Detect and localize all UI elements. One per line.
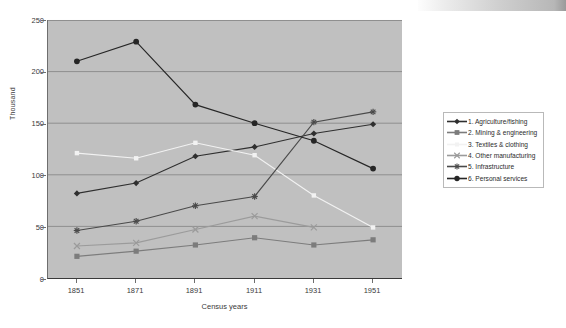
- data-point-small-square: [312, 193, 316, 197]
- data-point-square: [370, 237, 375, 242]
- data-point-circle: [311, 138, 317, 144]
- data-point-square: [311, 242, 316, 247]
- series-5: [74, 109, 377, 234]
- data-point-diamond: [454, 119, 460, 125]
- y-tick-label: 100: [12, 171, 44, 180]
- data-point-asterisk: [74, 227, 80, 233]
- x-tick-label: 1911: [224, 286, 284, 295]
- x-tick-label: 1891: [164, 286, 224, 295]
- x-tick-mark: [194, 279, 195, 283]
- data-point-square: [455, 131, 460, 136]
- data-point-small-square: [75, 151, 79, 155]
- legend-label: 4. Other manufacturing: [468, 150, 535, 161]
- x-tick-label: 1871: [105, 286, 165, 295]
- legend-label: 1. Agriculture/fishing: [468, 116, 527, 127]
- legend-label: 6. Personal services: [468, 173, 527, 184]
- data-point-square: [252, 235, 257, 240]
- y-tick-label: 50: [12, 223, 44, 232]
- data-point-asterisk: [251, 193, 257, 199]
- data-point-circle: [252, 120, 258, 126]
- data-point-circle: [192, 102, 198, 108]
- x-tick-mark: [76, 279, 77, 283]
- chart-legend: 1. Agriculture/fishing2. Mining & engine…: [443, 112, 544, 188]
- scan-gradient-bar: [418, 0, 566, 11]
- x-tick-mark: [254, 279, 255, 283]
- line-chart: 250 200 150 100 50 0 Thousand: [0, 0, 440, 328]
- data-point-small-square: [252, 153, 256, 157]
- legend-item-2[interactable]: 2. Mining & engineering: [446, 127, 540, 138]
- y-axis: 250 200 150 100 50 0: [6, 0, 44, 328]
- plot-area: [47, 20, 402, 279]
- x-tick-label: 1931: [283, 286, 343, 295]
- x-tick-mark: [313, 279, 314, 283]
- legend-marker-circle-icon: [446, 173, 468, 184]
- x-axis-title: Census years: [47, 302, 402, 311]
- series-line: [77, 112, 373, 231]
- series-line: [77, 124, 373, 193]
- y-tick-mark: [41, 279, 46, 280]
- series-2: [74, 235, 375, 259]
- y-tick-mark: [41, 20, 46, 21]
- data-point-circle: [370, 166, 376, 172]
- series-line: [77, 216, 314, 246]
- data-point-diamond: [133, 180, 139, 186]
- x-tick-label: 1851: [46, 286, 106, 295]
- series-3: [75, 141, 376, 230]
- legend-item-4[interactable]: 4. Other manufacturing: [446, 150, 540, 161]
- legend-item-1[interactable]: 1. Agriculture/fishing: [446, 116, 540, 127]
- data-point-small-square: [455, 142, 459, 146]
- y-tick-mark: [41, 72, 46, 73]
- data-point-diamond: [370, 121, 376, 127]
- legend-label: 3. Textiles & clothing: [468, 139, 528, 150]
- legend-marker-small-square-icon: [446, 139, 468, 150]
- data-point-small-square: [134, 156, 138, 160]
- legend-label: 2. Mining & engineering: [468, 127, 537, 138]
- legend-marker-diamond-icon: [446, 116, 468, 127]
- legend-item-3[interactable]: 3. Textiles & clothing: [446, 139, 540, 150]
- data-point-asterisk: [370, 109, 376, 115]
- y-tick-label: 200: [12, 67, 44, 76]
- y-tick-mark: [41, 124, 46, 125]
- data-point-circle: [74, 58, 80, 64]
- data-point-asterisk: [192, 203, 198, 209]
- data-point-diamond: [192, 153, 198, 159]
- data-point-diamond: [252, 144, 258, 150]
- y-axis-title: Thousand: [9, 87, 16, 120]
- legend-item-5[interactable]: 5. Infrastructure: [446, 161, 540, 172]
- data-point-square: [193, 242, 198, 247]
- data-point-small-square: [193, 141, 197, 145]
- data-point-asterisk: [454, 164, 460, 170]
- y-tick-mark: [41, 175, 46, 176]
- legend-item-6[interactable]: 6. Personal services: [446, 172, 540, 183]
- plot-svg: [48, 20, 402, 278]
- series-line: [77, 238, 373, 257]
- legend-marker-cross-icon: [446, 150, 468, 161]
- data-point-square: [74, 254, 79, 259]
- gridlines: [48, 20, 402, 226]
- data-point-small-square: [371, 225, 375, 229]
- data-point-square: [134, 249, 139, 254]
- data-point-diamond: [311, 130, 317, 136]
- data-point-asterisk: [311, 119, 317, 125]
- data-point-asterisk: [133, 218, 139, 224]
- data-point-diamond: [74, 190, 80, 196]
- x-tick-mark: [135, 279, 136, 283]
- chart-page: 250 200 150 100 50 0 Thousand: [0, 0, 566, 328]
- data-point-circle: [133, 39, 139, 45]
- x-tick-mark: [372, 279, 373, 283]
- x-tick-label: 1951: [342, 286, 402, 295]
- legend-marker-square-icon: [446, 127, 468, 138]
- y-tick-mark: [41, 227, 46, 228]
- y-tick-label: 150: [12, 119, 44, 128]
- legend-label: 5. Infrastructure: [468, 161, 514, 172]
- y-tick-label: 0: [12, 275, 44, 284]
- data-point-circle: [454, 175, 459, 180]
- legend-marker-asterisk-icon: [446, 161, 468, 172]
- series-1: [74, 121, 376, 196]
- y-tick-label: 250: [12, 16, 44, 25]
